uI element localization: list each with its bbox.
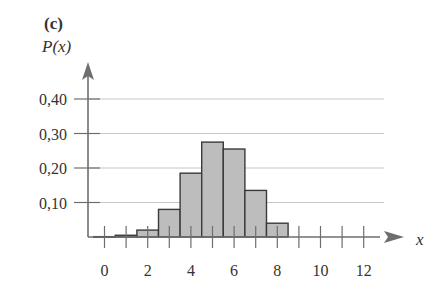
x-tick-label: 12 xyxy=(356,262,372,279)
x-tick-label: 10 xyxy=(313,262,329,279)
histogram-bar xyxy=(202,142,224,237)
y-axis-title: P(x) xyxy=(41,37,72,56)
x-tick-label: 6 xyxy=(230,262,238,279)
x-tick-label: 8 xyxy=(273,262,281,279)
x-tick-label: 0 xyxy=(101,262,109,279)
y-tick-label: 0,10 xyxy=(39,195,67,212)
probability-histogram: (c) P(x) x 0,100,200,300,40 024681012 xyxy=(0,0,445,297)
y-tick-label: 0,40 xyxy=(39,91,67,108)
x-tick-label: 4 xyxy=(187,262,195,279)
histogram-bar xyxy=(223,149,245,237)
y-tick-label: 0,30 xyxy=(39,126,67,143)
x-axis-arrow-icon xyxy=(384,231,404,243)
x-axis-title: x xyxy=(415,230,424,249)
y-axis-ticks: 0,100,200,300,40 xyxy=(39,91,100,212)
panel-label: (c) xyxy=(44,14,63,33)
x-tick-label: 2 xyxy=(144,262,152,279)
bars xyxy=(94,142,288,237)
y-tick-label: 0,20 xyxy=(39,160,67,177)
